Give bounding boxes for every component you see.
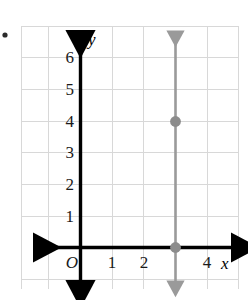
x-tick-label-1: 1 bbox=[108, 254, 117, 271]
data-point-3-4 bbox=[170, 116, 181, 127]
y-tick-label-5: 5 bbox=[66, 81, 75, 98]
y-tick-label-3: 3 bbox=[66, 144, 75, 161]
x-axis-label: x bbox=[221, 255, 229, 272]
y-tick-label-1: 1 bbox=[66, 208, 75, 225]
origin-label: O bbox=[66, 253, 78, 273]
y-tick-label-2: 2 bbox=[66, 176, 75, 193]
data-point-3-0 bbox=[170, 242, 181, 253]
x-tick-label-4: 4 bbox=[203, 254, 212, 271]
y-axis-label: y bbox=[88, 31, 96, 48]
graph-figure: 6 5 4 3 2 1 1 2 4 O y x bbox=[0, 0, 248, 300]
y-tick-label-4: 4 bbox=[66, 113, 75, 130]
x-tick-label-2: 2 bbox=[140, 254, 149, 271]
y-tick-label-6: 6 bbox=[66, 49, 75, 66]
page-margin-mark bbox=[2, 32, 7, 37]
grid-lines bbox=[21, 26, 239, 289]
